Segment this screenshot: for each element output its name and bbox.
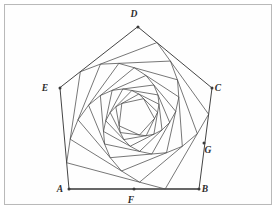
vertex-dot-b [198,188,201,191]
vertex-dot-e [59,87,62,90]
nested-pentagon-2 [70,61,197,182]
pentagon-spiral-figure: ABCDEFG [0,0,278,211]
vertex-dot-d [137,26,140,29]
label-g: G [205,145,212,155]
figure-root: ABCDEFG [0,0,278,211]
label-e: E [41,83,48,93]
label-b: B [201,184,208,194]
label-a: A [56,184,63,194]
vertex-dots-group [59,26,214,191]
label-f: F [127,195,135,205]
vertex-dot-f [133,188,136,191]
nested-pentagons-group [60,27,212,189]
nested-pentagon-1 [67,43,209,189]
vertex-dot-a [68,188,71,191]
label-c: C [215,83,222,93]
vertex-dot-c [211,87,214,90]
label-d: D [130,9,138,19]
